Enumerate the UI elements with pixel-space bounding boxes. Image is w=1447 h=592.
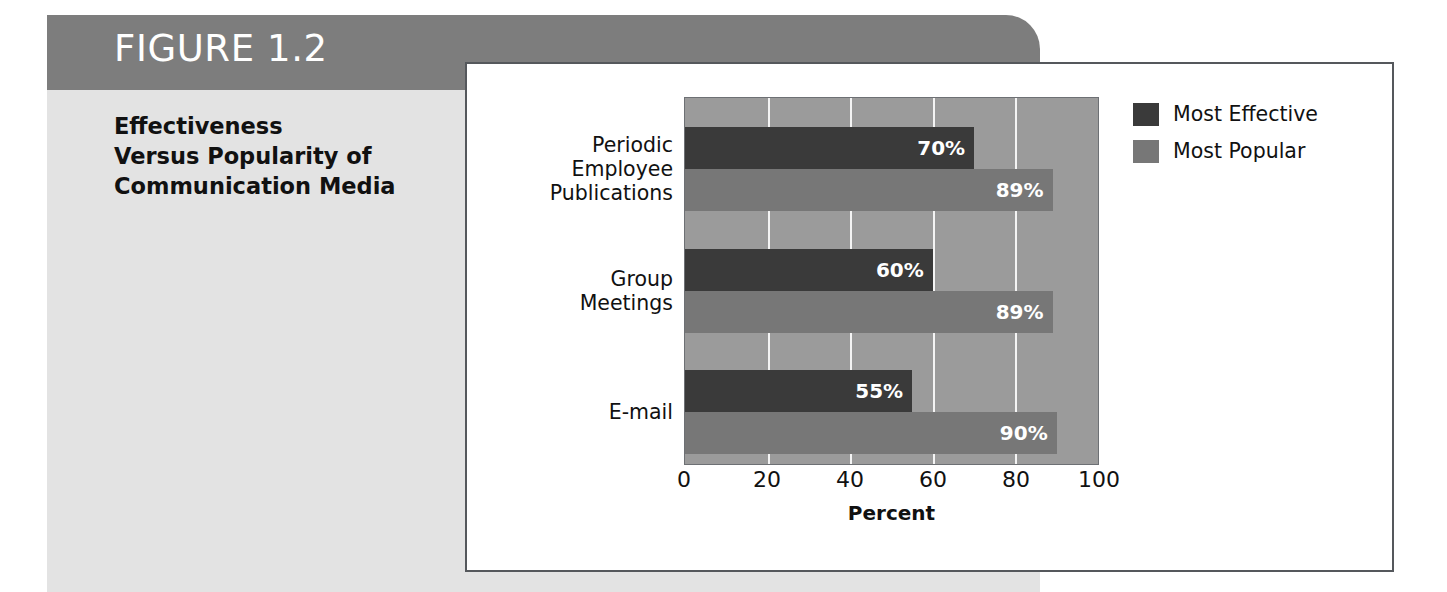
chart-legend: Most EffectiveMost Popular	[1133, 102, 1318, 176]
legend-item: Most Popular	[1133, 139, 1318, 163]
bar-most-effective: 70%	[685, 127, 974, 169]
bar-value-label: 60%	[876, 258, 933, 282]
bar-most-effective: 60%	[685, 249, 933, 291]
bar-group: PeriodicEmployeePublications70%89%	[685, 127, 1098, 211]
x-axis-tick: 0	[677, 467, 691, 492]
category-label-line: Employee	[473, 157, 673, 181]
x-axis-tick: 60	[919, 467, 947, 492]
x-axis-tick: 100	[1078, 467, 1120, 492]
bar-value-label: 89%	[996, 300, 1053, 324]
bar-value-label: 55%	[855, 379, 912, 403]
legend-swatch-icon	[1133, 103, 1159, 126]
category-label: GroupMeetings	[473, 267, 685, 315]
category-label: PeriodicEmployeePublications	[473, 133, 685, 205]
bar-most-effective: 55%	[685, 370, 912, 412]
legend-swatch-icon	[1133, 140, 1159, 163]
bar-group: GroupMeetings60%89%	[685, 249, 1098, 333]
figure-number-label: FIGURE 1.2	[114, 27, 328, 70]
plot-area: PeriodicEmployeePublications70%89%GroupM…	[684, 97, 1099, 465]
bar-value-label: 70%	[917, 136, 974, 160]
category-label-line: Periodic	[473, 133, 673, 157]
bar-most-popular: 89%	[685, 169, 1053, 211]
legend-item: Most Effective	[1133, 102, 1318, 126]
category-label-line: Publications	[473, 181, 673, 205]
legend-label: Most Popular	[1173, 139, 1305, 163]
category-label: E-mail	[473, 400, 685, 424]
x-axis-tick-labels: 020406080100	[684, 467, 1099, 501]
bar-value-label: 90%	[1000, 421, 1057, 445]
category-label-line: Meetings	[473, 291, 673, 315]
category-label-line: E-mail	[473, 400, 673, 424]
bar-value-label: 89%	[996, 178, 1053, 202]
legend-label: Most Effective	[1173, 102, 1318, 126]
x-axis-tick: 40	[836, 467, 864, 492]
chart-panel: PeriodicEmployeePublications70%89%GroupM…	[465, 62, 1394, 572]
category-label-line: Group	[473, 267, 673, 291]
x-axis-tick: 80	[1002, 467, 1030, 492]
x-axis-title: Percent	[684, 501, 1099, 525]
bar-most-popular: 89%	[685, 291, 1053, 333]
bar-group: E-mail55%90%	[685, 370, 1098, 454]
bar-most-popular: 90%	[685, 412, 1057, 454]
x-axis-tick: 20	[753, 467, 781, 492]
